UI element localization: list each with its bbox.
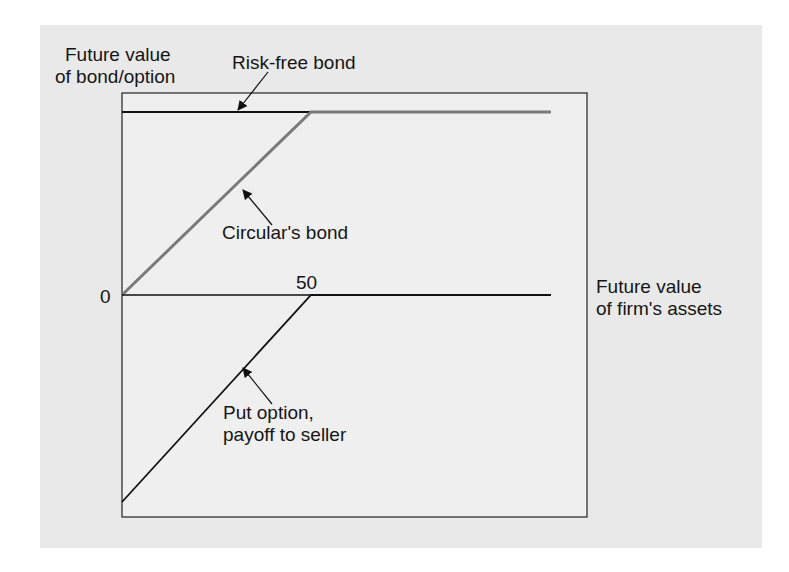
zero-tick-label: 0 — [100, 286, 111, 308]
circular-bond-label: Circular's bond — [222, 222, 348, 244]
x-axis-label: Future value of firm's assets — [596, 276, 722, 320]
y-axis-label: Future value of bond/option — [55, 44, 175, 88]
put-option-label: Put option, payoff to seller — [223, 402, 346, 446]
risk-free-label: Risk-free bond — [232, 52, 356, 74]
plot-frame — [122, 93, 587, 517]
fifty-tick-label: 50 — [296, 272, 317, 294]
